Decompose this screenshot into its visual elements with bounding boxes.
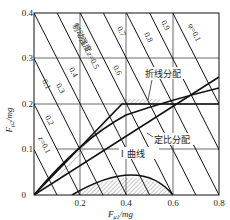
z-label-0.3: 0.3 bbox=[54, 82, 67, 95]
x-tick-0.2: 0.2 bbox=[74, 198, 85, 208]
z-label-0.6: 0.6 bbox=[111, 64, 124, 77]
z-label-0.8: 0.8 bbox=[142, 31, 155, 44]
braking-force-chart: 0 0.2 0.4 0.6 0.8 0.1 0.2 0.3 0.4 Fμ1/mg… bbox=[0, 0, 230, 220]
z-label-0.4: 0.4 bbox=[67, 66, 80, 79]
x-tick-0.8: 0.8 bbox=[213, 198, 225, 208]
y-tick-0.4: 0.4 bbox=[22, 8, 34, 18]
z-label-phi0.1: φ=0.1 bbox=[186, 22, 203, 43]
annotation-fixed-ratio: 定比分配 bbox=[154, 134, 190, 145]
z-label-0.9: 0.9 bbox=[159, 19, 172, 32]
x-tick-0: 0 bbox=[22, 190, 27, 200]
y-tick-0.1: 0.1 bbox=[22, 144, 33, 154]
x-tick-0.4: 0.4 bbox=[120, 198, 132, 208]
y-tick-0.3: 0.3 bbox=[22, 53, 34, 63]
annotation-broken-line: 折线分配 bbox=[145, 68, 181, 79]
z-label-0.1: 0.1 bbox=[40, 78, 53, 91]
x-tick-0.6: 0.6 bbox=[167, 198, 179, 208]
annotation-i-curve: I 曲线 bbox=[121, 148, 145, 159]
y-tick-0.2: 0.2 bbox=[22, 99, 33, 109]
x-axis-label: Fμ1/mg bbox=[107, 209, 134, 220]
z-label-z0.1: z=0.1 bbox=[36, 135, 52, 155]
y-axis-label: Fμ2/mg bbox=[4, 107, 15, 134]
